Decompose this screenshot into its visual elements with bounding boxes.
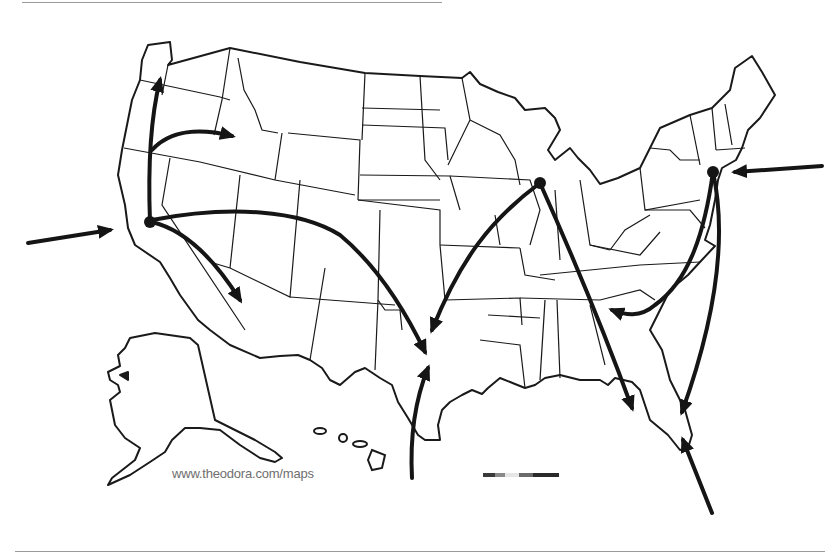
arrow-caribbean-to-florida <box>683 440 712 513</box>
arrow-pacific-to-sf <box>28 230 110 243</box>
scale-seg <box>495 473 505 477</box>
hub-san-francisco <box>144 216 156 228</box>
arrow-atlantic-to-ny <box>735 166 822 172</box>
us-map <box>0 0 840 560</box>
hawaii <box>314 428 385 470</box>
scale-seg <box>483 473 495 477</box>
source-watermark[interactable]: www.theodora.com/maps <box>172 466 314 481</box>
hub-new-york <box>707 166 719 178</box>
scale-seg <box>505 473 519 477</box>
hub-chicago <box>534 177 546 189</box>
contiguous-us-outline <box>118 42 775 450</box>
scale-seg <box>533 473 559 477</box>
scale-bar <box>483 473 559 477</box>
scale-seg <box>519 473 533 477</box>
frame-bottom-rule <box>15 551 825 552</box>
